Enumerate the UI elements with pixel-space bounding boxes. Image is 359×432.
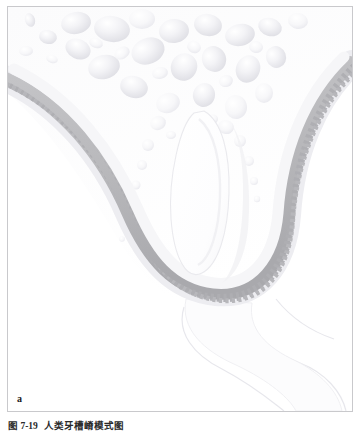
soft-tissue-body — [185, 299, 342, 411]
caption-text: 人类牙槽嵴模式图 — [44, 421, 124, 431]
panel-letter: a — [17, 394, 22, 404]
anatomical-illustration — [8, 7, 352, 411]
figure-caption: 图 7-19人类牙槽嵴模式图 — [8, 420, 348, 432]
figure-panel: a — [7, 6, 353, 412]
figure-page: a 图 7-19人类牙槽嵴模式图 — [0, 0, 359, 432]
caption-number: 图 7-19 — [8, 421, 38, 431]
